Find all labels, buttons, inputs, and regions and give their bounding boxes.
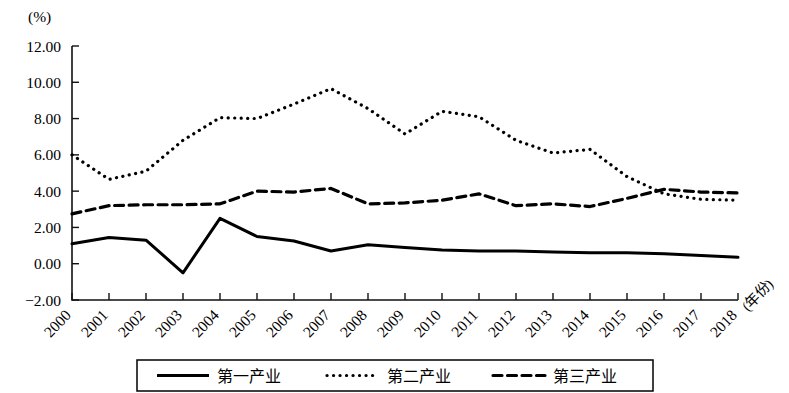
x-axis-tick-labels: 2000200120022003200420052006200720082009…: [40, 306, 740, 340]
x-tick-label: 2018: [706, 306, 740, 340]
series-group: [72, 89, 738, 273]
x-tick-label: 2008: [336, 306, 370, 340]
x-tick-label: 2016: [632, 306, 666, 340]
series-line-1: [72, 218, 738, 272]
x-tick-label: 2011: [448, 306, 481, 340]
y-tick-label: 10.00: [26, 74, 61, 91]
x-tick-label: 2007: [299, 306, 333, 340]
x-tick-label: 2001: [77, 306, 111, 340]
x-tick-label: 2006: [262, 306, 296, 340]
y-axis-ticks: 12.0010.008.006.004.002.000.00−2.00: [25, 38, 79, 309]
x-tick-label: 2015: [595, 306, 629, 340]
y-tick-label: −2.00: [25, 292, 61, 309]
y-axis-unit-group: (%): [28, 8, 51, 26]
x-tick-label: 2000: [40, 306, 74, 340]
x-tick-label: 2003: [151, 306, 185, 340]
y-tick-label: 8.00: [34, 110, 61, 127]
y-tick-label: 2.00: [34, 219, 61, 236]
legend-label: 第二产业: [387, 368, 451, 385]
x-tick-label: 2009: [373, 306, 407, 340]
chart-container: (%) 12.0010.008.006.004.002.000.00−2.00 …: [0, 0, 789, 393]
legend-label: 第三产业: [553, 368, 617, 385]
y-tick-label: 12.00: [26, 38, 61, 55]
x-tick-label: 2002: [114, 306, 148, 340]
y-tick-label: 0.00: [34, 255, 61, 272]
series-line-2: [72, 89, 738, 201]
line-chart: (%) 12.0010.008.006.004.002.000.00−2.00 …: [0, 0, 789, 393]
x-tick-label: 2012: [484, 306, 518, 340]
y-tick-label: 4.00: [34, 183, 61, 200]
x-tick-label: 2017: [669, 306, 703, 340]
y-axis-unit-label: (%): [28, 8, 51, 26]
x-axis-title: (年份): [739, 276, 778, 315]
y-tick-label: 6.00: [34, 146, 61, 163]
chart-legend: 第一产业第二产业第三产业: [137, 360, 653, 391]
legend-label: 第一产业: [217, 368, 281, 385]
x-axis-ticks: [72, 293, 738, 300]
series-line-3: [72, 188, 738, 213]
x-tick-label: 2004: [188, 306, 222, 340]
x-tick-label: 2005: [225, 306, 259, 340]
x-tick-label: 2013: [521, 306, 555, 340]
x-tick-label: 2014: [558, 306, 592, 340]
x-tick-label: 2010: [410, 306, 444, 340]
